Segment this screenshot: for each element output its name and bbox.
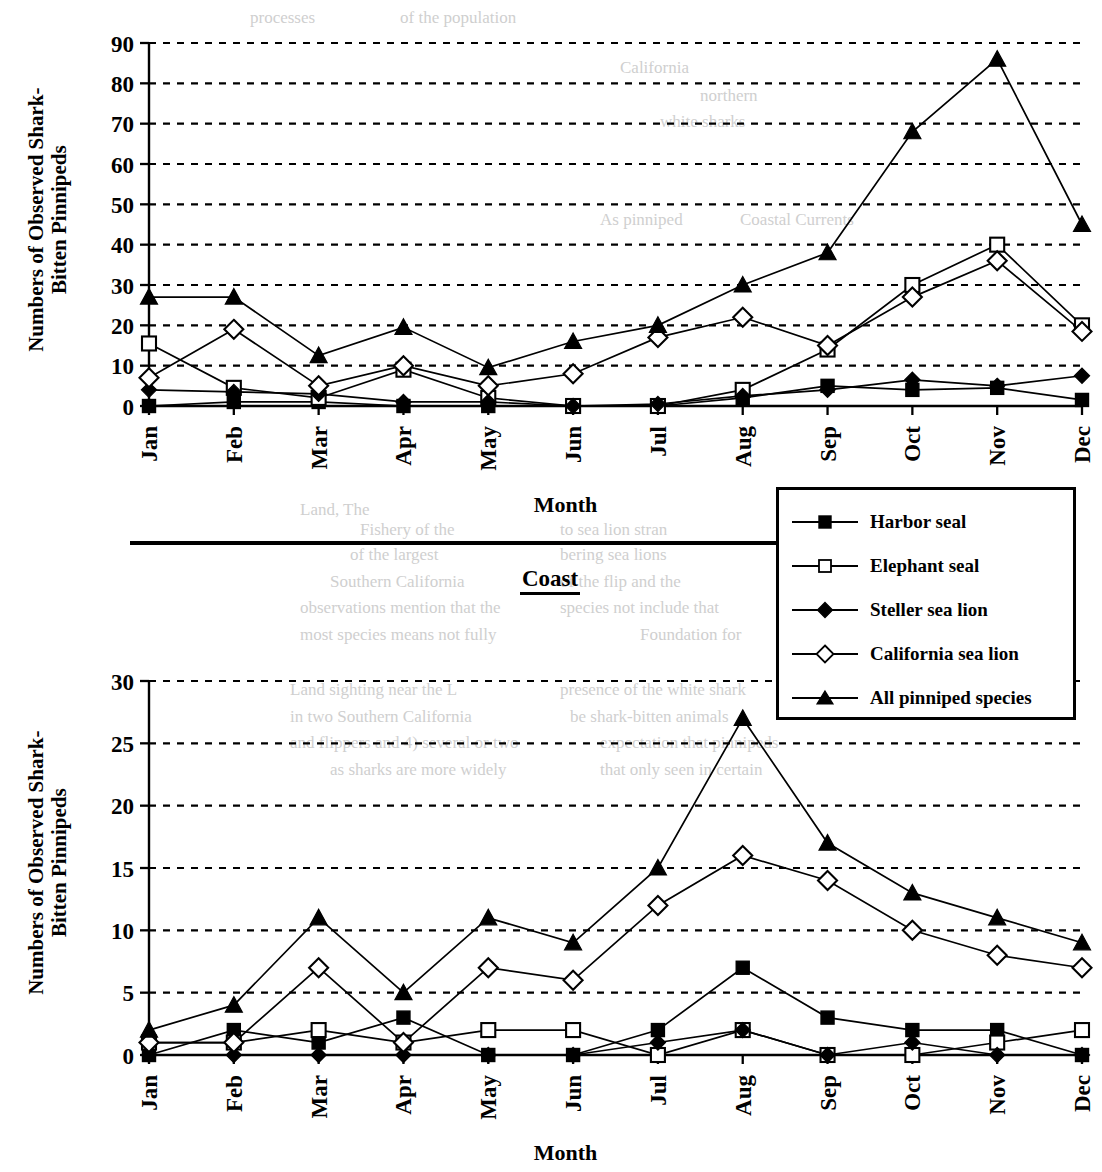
x-tick-label: Dec	[1070, 1075, 1095, 1112]
y-tick-label: 30	[111, 274, 134, 299]
filled-square-icon	[790, 512, 860, 532]
filled-square-marker	[143, 400, 156, 413]
filled-triangle-marker	[395, 319, 412, 335]
filled-diamond-marker	[311, 1048, 326, 1063]
series-markers-harbor-seal	[143, 379, 1089, 412]
series-line-elephant-seal	[149, 1030, 1082, 1055]
coast-label: Coast	[470, 566, 630, 592]
filled-triangle-marker	[649, 860, 666, 876]
x-tick-label: Oct	[900, 426, 925, 462]
x-tick-label: Jul	[646, 1075, 671, 1106]
x-tick-label: Jun	[561, 426, 586, 463]
open-diamond-marker	[140, 368, 159, 387]
x-tick-label: Jan	[137, 1075, 162, 1111]
open-diamond-marker	[818, 871, 837, 890]
filled-square-marker	[1076, 393, 1089, 406]
y-tick-label: 20	[111, 794, 134, 819]
filled-triangle-marker	[989, 51, 1006, 66]
open-square-icon	[790, 556, 860, 576]
x-tick-label: Mar	[307, 426, 332, 469]
filled-diamond-icon	[790, 600, 860, 620]
filled-triangle-marker	[819, 244, 836, 260]
legend-label: All pinniped species	[870, 687, 1032, 709]
legend-item: Steller sea lion	[779, 588, 1073, 632]
y-tick-label: 0	[123, 395, 135, 420]
series-markers-california-sea-lion	[140, 251, 1092, 395]
x-tick-label: Aug	[731, 426, 756, 467]
series-markers-california-sea-lion	[140, 846, 1092, 1052]
legend-label: Elephant seal	[870, 555, 979, 577]
x-tick-label: Jan	[137, 426, 162, 462]
series-line-all-pinniped-species	[149, 59, 1082, 368]
open-square-marker	[142, 336, 156, 350]
y-tick-label: 20	[111, 314, 134, 339]
filled-triangle-marker	[310, 347, 327, 363]
y-tick-label: 25	[111, 732, 134, 757]
legend-item: California sea lion	[779, 632, 1073, 676]
x-tick-label: Oct	[900, 1075, 925, 1111]
filled-triangle-marker	[310, 909, 327, 925]
series-line-harbor-seal	[149, 386, 1082, 406]
legend-item: All pinniped species	[779, 676, 1073, 720]
x-tick-label: Jul	[646, 426, 671, 457]
x-tick-label: Dec	[1070, 426, 1095, 463]
open-diamond-marker	[733, 308, 752, 327]
x-tick-label: Mar	[307, 1075, 332, 1118]
legend-label: Steller sea lion	[870, 599, 988, 621]
filled-triangle-marker	[734, 710, 751, 726]
chart-panel-top: Numbers of Observed Shark- Bitten Pinnip…	[0, 0, 1102, 540]
filled-triangle-marker	[141, 1022, 158, 1038]
page-bleed-text: bering sea lions	[560, 545, 667, 565]
open-diamond-marker	[733, 846, 752, 865]
filled-triangle-marker	[989, 909, 1006, 925]
open-square-marker	[990, 238, 1004, 252]
panel-divider	[130, 541, 790, 545]
open-square-marker	[312, 1023, 326, 1037]
filled-diamond-marker	[1075, 368, 1090, 383]
y-tick-label: 5	[123, 981, 135, 1006]
x-tick-label: Aug	[731, 1075, 756, 1116]
filled-triangle-icon	[790, 688, 860, 708]
y-tick-label: 15	[111, 857, 134, 882]
y-tick-label: 0	[123, 1044, 135, 1069]
legend-label: California sea lion	[870, 643, 1019, 665]
filled-square-marker	[397, 1011, 410, 1024]
y-tick-label: 50	[111, 193, 134, 218]
x-tick-label: Nov	[985, 426, 1010, 466]
filled-triangle-marker	[819, 835, 836, 851]
y-tick-label: 70	[111, 112, 134, 137]
x-tick-label: May	[476, 1075, 501, 1120]
y-tick-label: 40	[111, 233, 134, 258]
x-tick-label: May	[476, 426, 501, 471]
x-tick-label: Feb	[222, 1075, 247, 1112]
page-bleed-text: Southern California	[330, 572, 465, 592]
y-tick-label: 10	[111, 919, 134, 944]
x-tick-label: Nov	[985, 1075, 1010, 1115]
filled-triangle-marker	[734, 277, 751, 293]
series-line-california-sea-lion	[149, 261, 1082, 386]
series-markers-harbor-seal	[143, 961, 1089, 1061]
filled-triangle-marker	[480, 359, 497, 375]
legend-item: Elephant seal	[779, 544, 1073, 588]
open-diamond-marker	[988, 251, 1007, 270]
filled-triangle-marker	[904, 884, 921, 900]
x-tick-label: Sep	[816, 426, 841, 462]
filled-triangle-marker	[480, 909, 497, 925]
filled-triangle-marker	[649, 317, 666, 333]
y-tick-label: 10	[111, 354, 134, 379]
open-square-marker	[566, 1023, 580, 1037]
x-tick-label: Feb	[222, 426, 247, 463]
open-diamond-marker	[564, 364, 583, 383]
y-tick-label: 80	[111, 72, 134, 97]
series-markers-all-pinniped-species	[141, 710, 1091, 1037]
coast-label-text: Coast	[520, 566, 580, 595]
legend-item: Harbor seal	[779, 500, 1073, 544]
x-tick-label: Apr	[391, 426, 416, 466]
chart-svg-top: 0102030405060708090JanFebMarAprMayJunJul…	[0, 0, 1102, 540]
series-line-all-pinniped-species	[149, 718, 1082, 1030]
chart-legend: Harbor seal Elephant seal Steller sea li…	[776, 487, 1076, 720]
open-diamond-icon	[790, 644, 860, 664]
y-tick-label: 60	[111, 153, 134, 178]
open-square-marker	[481, 1023, 495, 1037]
filled-square-marker	[821, 1011, 834, 1024]
